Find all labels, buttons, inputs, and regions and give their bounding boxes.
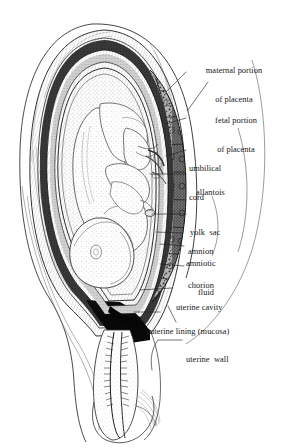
yolk-sac-structure — [145, 210, 155, 217]
label-uterine-wall: uterine wall — [186, 336, 284, 374]
label-allantois: allantois — [196, 169, 286, 207]
label-line-1: allantois — [196, 188, 286, 198]
label-line-1: fetal portion — [191, 116, 281, 126]
label-line-1: maternal portion — [186, 66, 282, 76]
label-line-1: uterine wall — [186, 355, 284, 365]
cervical-canal — [93, 330, 138, 440]
